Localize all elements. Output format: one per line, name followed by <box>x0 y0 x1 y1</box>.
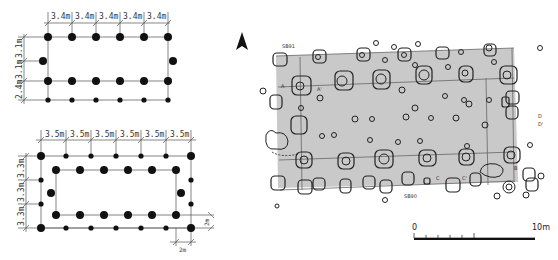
dim-b-offset-x: 2m <box>179 246 187 253</box>
dim-b-offset-y: 2m <box>203 218 210 226</box>
scale-end: 10m <box>532 223 550 232</box>
label-a-prime: A' <box>317 86 322 92</box>
dim-b-y2: 3.3m <box>17 207 26 226</box>
plan-b: 3.5m 3.5m 3.5m 3.5m 3.5m 3.5m 3.3m 3.3m … <box>17 130 214 253</box>
label-d: D <box>538 113 542 119</box>
label-b: B <box>514 165 518 171</box>
dim-b-x3: 3.5m <box>120 130 139 139</box>
dim-a-y0: 3.1m <box>15 39 24 58</box>
dim-b-x5: 3.5m <box>170 130 189 139</box>
site-plan: SB91 SB90 A A' C C' D D' B <box>236 32 544 208</box>
north-arrow-icon <box>236 32 248 50</box>
label-a: A <box>281 83 285 89</box>
dim-a-y1: 3.1m <box>15 60 24 79</box>
dim-b-y0: 3.3m <box>17 159 26 178</box>
dim-b-x2: 3.5m <box>95 130 114 139</box>
label-d-prime: D' <box>538 121 543 127</box>
dim-a-x4: 3.4m <box>147 12 166 21</box>
dim-a-x2: 3.4m <box>99 12 118 21</box>
dim-a-x3: 3.4m <box>123 12 142 21</box>
label-sb91: SB91 <box>282 43 295 49</box>
plan-a: 3.4m 3.4m 3.4m 3.4m 3.4m 3.1m 3.1m 2.4m <box>15 12 177 104</box>
label-c: C <box>436 175 440 181</box>
dim-a-y2: 2.4m <box>15 80 24 99</box>
dim-b-x4: 3.5m <box>145 130 164 139</box>
dim-b-x0: 3.5m <box>45 130 64 139</box>
scale-start: 0 <box>412 223 417 232</box>
dim-b-x1: 3.5m <box>70 130 89 139</box>
scale-bar: 0 10m <box>412 223 550 240</box>
dim-a-x0: 3.4m <box>51 12 70 21</box>
dim-a-x1: 3.4m <box>75 12 94 21</box>
dim-b-y1: 3.3m <box>17 183 26 202</box>
label-sb90: SB90 <box>404 193 417 199</box>
label-c-prime: C' <box>462 175 467 181</box>
